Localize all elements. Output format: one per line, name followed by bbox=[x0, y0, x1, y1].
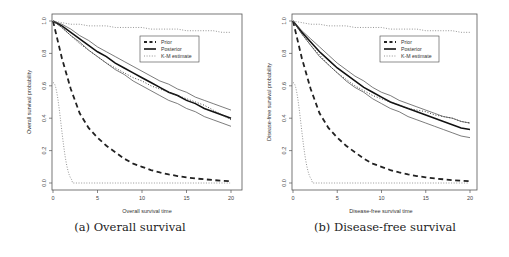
legend-label: K-M estimate bbox=[401, 53, 432, 59]
chart-overall-survival: 05101520 0.00.20.40.60.81.0 PriorPosteri… bbox=[0, 0, 255, 215]
caption-a: (a) Overall survival bbox=[60, 220, 200, 234]
caption-b: (b) Disease-free survival bbox=[305, 220, 465, 234]
x-tick-label: 5 bbox=[336, 195, 339, 201]
x-tick-label: 0 bbox=[51, 195, 54, 201]
legend: PriorPosteriorK-M estimate bbox=[140, 36, 199, 62]
y-tick-label: 0.2 bbox=[281, 147, 287, 155]
legend-label: K-M estimate bbox=[161, 53, 192, 59]
legend: PriorPosteriorK-M estimate bbox=[380, 36, 439, 62]
y-axis-label: Overall survival probability bbox=[26, 70, 32, 134]
x-tick-label: 5 bbox=[96, 195, 99, 201]
series-line bbox=[53, 83, 230, 183]
series-line bbox=[53, 21, 231, 32]
y-tick-label: 0.2 bbox=[41, 147, 47, 155]
legend-label: Posterior bbox=[401, 46, 422, 52]
x-tick-label: 20 bbox=[467, 195, 473, 201]
y-tick-label: 0.8 bbox=[281, 50, 287, 58]
legend-label: Posterior bbox=[161, 46, 182, 52]
x-axis: 05101520 bbox=[291, 190, 473, 201]
x-tick-label: 15 bbox=[423, 195, 429, 201]
y-tick-label: 1.0 bbox=[281, 17, 287, 25]
y-tick-label: 0.0 bbox=[41, 179, 47, 187]
y-tick-label: 0.6 bbox=[41, 82, 47, 90]
x-tick-label: 15 bbox=[183, 195, 189, 201]
chart-disease-free-survival: 05101520 0.00.20.40.60.81.0 PriorPosteri… bbox=[254, 0, 509, 215]
series-line bbox=[293, 21, 470, 32]
y-axis: 0.00.20.40.60.81.0 bbox=[41, 17, 52, 187]
legend-label: Prior bbox=[401, 39, 412, 45]
x-axis-label: Overall survival time bbox=[122, 208, 172, 214]
x-axis: 05101520 bbox=[51, 190, 234, 201]
x-tick-label: 10 bbox=[378, 195, 384, 201]
y-tick-label: 0.4 bbox=[281, 114, 287, 122]
x-tick-label: 0 bbox=[291, 195, 294, 201]
y-tick-label: 0.4 bbox=[41, 114, 47, 122]
legend-label: Prior bbox=[161, 39, 172, 45]
y-tick-label: 0.8 bbox=[41, 50, 47, 58]
y-tick-label: 0.0 bbox=[281, 179, 287, 187]
y-tick-label: 0.6 bbox=[281, 82, 287, 90]
x-axis-label: Disease-free survival time bbox=[349, 208, 412, 214]
series-line bbox=[53, 21, 231, 110]
y-axis-label: Disease-free survival probability bbox=[266, 63, 272, 141]
y-axis: 0.00.20.40.60.81.0 bbox=[281, 17, 292, 187]
x-tick-label: 10 bbox=[139, 195, 145, 201]
y-tick-label: 1.0 bbox=[41, 17, 47, 25]
x-tick-label: 20 bbox=[228, 195, 234, 201]
